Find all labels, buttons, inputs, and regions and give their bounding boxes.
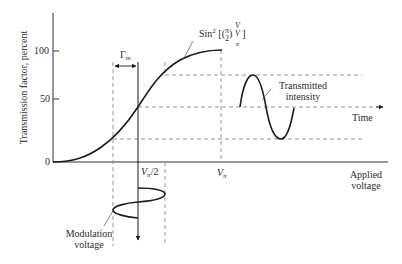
y-tick-label-0: 0 bbox=[45, 156, 50, 167]
y-tick-label-50: 50 bbox=[40, 93, 50, 104]
dashed-guides bbox=[113, 50, 378, 246]
modulation-voltage-wave bbox=[113, 188, 165, 218]
x-tick-label-vpi-half: Vπ/2 bbox=[141, 166, 158, 181]
time-label: Time bbox=[352, 112, 373, 123]
y-axis-label: Transmission factor, percent bbox=[18, 13, 29, 163]
modulation-label-leader bbox=[104, 211, 113, 226]
y-tick-label-100: 100 bbox=[34, 45, 49, 56]
x-tick-label-vpi: Vπ bbox=[217, 167, 227, 182]
modulation-voltage-label: Modulation voltage bbox=[60, 228, 118, 250]
transmitted-intensity-label: Transmitted intensity bbox=[272, 80, 334, 102]
modulator-transfer-diagram: Transmission factor, percent 0 50 100 Γm… bbox=[0, 0, 402, 264]
curve-formula-label: Sin2 [(π2) VVπ ] bbox=[199, 22, 246, 48]
x-axis-label: Applied voltage bbox=[346, 169, 386, 191]
y-axis bbox=[53, 13, 59, 162]
gamma-m-label: Γm bbox=[120, 49, 131, 64]
